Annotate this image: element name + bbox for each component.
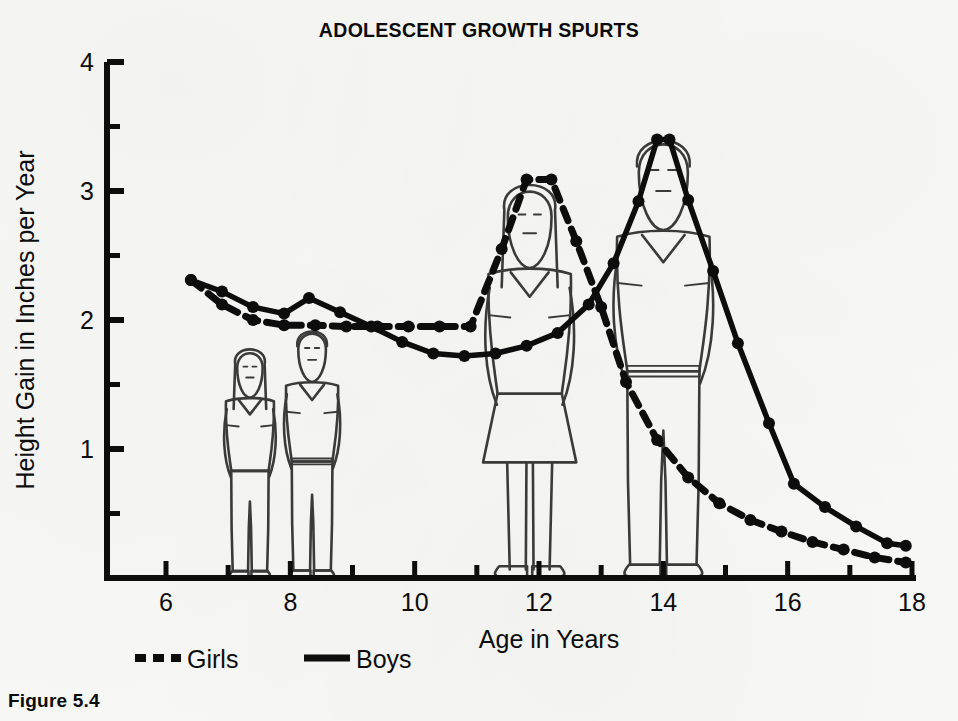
data-point-boys	[707, 265, 719, 277]
x-axis-tick-label: 16	[774, 588, 802, 616]
person-trousers	[292, 461, 333, 570]
person-face	[243, 367, 256, 378]
axis-layer: 1234681012141618Age in YearsHeight Gain …	[11, 48, 926, 653]
axis-frame	[107, 62, 916, 578]
data-point-boys	[633, 195, 645, 207]
person-face	[518, 215, 540, 234]
illustration-teen-boy	[613, 141, 713, 578]
data-point-girls	[595, 301, 607, 313]
data-point-girls	[403, 321, 415, 333]
data-point-boys	[427, 348, 439, 360]
data-point-boys	[819, 501, 831, 513]
person-head	[298, 334, 326, 382]
legend-label-boys: Boys	[356, 645, 412, 673]
person-torso	[617, 231, 710, 371]
x-axis-tick-label: 8	[283, 588, 297, 616]
series-line-girls	[191, 179, 906, 562]
data-point-girls	[900, 557, 912, 569]
data-point-girls	[713, 497, 725, 509]
growth-spurt-chart: 1234681012141618Age in YearsHeight Gain …	[0, 0, 958, 721]
data-point-boys	[396, 336, 408, 348]
illustration-teen-girl	[483, 185, 576, 578]
person-sleeve	[286, 412, 338, 413]
x-axis-tick-label: 18	[898, 588, 926, 616]
data-point-girls	[570, 235, 582, 247]
x-axis-tick-label: 12	[525, 588, 553, 616]
x-axis-title: Age in Years	[479, 625, 619, 653]
data-point-girls	[838, 544, 850, 556]
data-point-girls	[776, 526, 788, 538]
data-point-boys	[732, 337, 744, 349]
series-boys	[185, 133, 912, 551]
data-point-girls	[651, 434, 663, 446]
chart-legend: GirlsBoys	[135, 645, 412, 673]
person-sleeve	[489, 315, 570, 317]
data-point-boys	[185, 274, 197, 286]
series-layer	[185, 133, 912, 568]
data-point-boys	[664, 133, 676, 145]
data-point-girls	[434, 321, 446, 333]
data-point-boys	[365, 321, 377, 333]
person-collar	[642, 235, 685, 262]
data-point-boys	[303, 292, 315, 304]
y-axis-tick-label: 1	[80, 435, 94, 463]
person-trousers	[231, 471, 268, 571]
figure-caption: Figure 5.4	[8, 690, 100, 712]
data-point-boys	[247, 301, 259, 313]
x-axis-tick-label: 14	[649, 588, 677, 616]
illustration-young-girl	[224, 349, 276, 578]
data-point-girls	[340, 321, 352, 333]
person-arms	[613, 252, 713, 383]
person-face	[305, 348, 319, 360]
data-point-boys	[490, 348, 502, 360]
illustration-young-boy	[284, 331, 340, 578]
x-axis-tick-label: 6	[159, 588, 173, 616]
data-point-boys	[521, 340, 533, 352]
person-legs	[507, 462, 552, 569]
data-point-girls	[869, 551, 881, 563]
data-point-boys	[850, 520, 862, 532]
y-axis-tick-label: 2	[80, 306, 94, 334]
data-point-girls	[807, 536, 819, 548]
y-axis-tick-label: 3	[80, 177, 94, 205]
legend-item-boys: Boys	[304, 645, 412, 673]
person-sleeve	[618, 283, 709, 286]
data-point-girls	[682, 471, 694, 483]
data-point-boys	[881, 537, 893, 549]
data-point-boys	[608, 257, 620, 269]
legend-item-girls: Girls	[135, 645, 238, 673]
y-axis-title: Height Gain in Inches per Year	[11, 150, 39, 489]
data-point-boys	[458, 350, 470, 362]
data-point-girls	[216, 299, 228, 311]
data-point-boys	[216, 286, 228, 298]
person-sleeve	[226, 425, 273, 426]
data-point-girls	[247, 314, 259, 326]
data-point-girls	[744, 514, 756, 526]
data-point-boys	[651, 133, 663, 145]
data-point-girls	[278, 319, 290, 331]
data-point-boys	[763, 417, 775, 429]
person-head	[508, 192, 552, 268]
data-point-boys	[552, 327, 564, 339]
person-collar	[300, 385, 324, 400]
person-face	[651, 170, 676, 191]
data-point-boys	[334, 306, 346, 318]
person-head	[639, 144, 688, 230]
legend-label-girls: Girls	[187, 645, 238, 673]
data-point-boys	[788, 478, 800, 490]
data-point-girls	[309, 319, 321, 331]
person-torso	[286, 382, 338, 461]
data-point-girls	[496, 243, 508, 255]
data-point-girls	[465, 321, 477, 333]
person-collar	[511, 272, 549, 296]
x-axis-tick-label: 10	[401, 588, 429, 616]
data-point-boys	[583, 299, 595, 311]
data-point-boys	[278, 308, 290, 320]
y-axis-tick-label: 4	[80, 48, 94, 76]
data-point-girls	[620, 376, 632, 388]
person-head	[237, 353, 262, 397]
data-point-boys	[900, 540, 912, 552]
person-collar	[239, 400, 261, 414]
series-girls	[185, 173, 912, 568]
data-point-boys	[682, 194, 694, 206]
